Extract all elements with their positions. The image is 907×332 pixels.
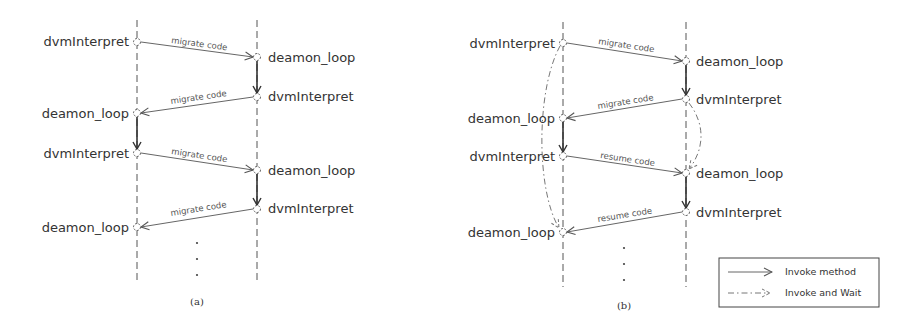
node	[560, 153, 567, 160]
sequence-diagram: migrate code migrate code migrate code m…	[0, 0, 907, 332]
node	[683, 58, 690, 65]
node	[683, 209, 690, 216]
node-label: dvmInterpret	[696, 205, 782, 220]
caption-a: (a)	[190, 296, 204, 307]
node	[254, 206, 261, 213]
node-label: deamon_loop	[268, 50, 355, 65]
node-label: deamon_loop	[696, 54, 783, 69]
invoke-wait-arrow	[542, 46, 560, 228]
node	[560, 229, 567, 236]
message-label: migrate code	[170, 88, 227, 106]
node-label: dvmInterpret	[268, 201, 354, 216]
message-label: migrate code	[598, 36, 655, 54]
node	[254, 167, 261, 174]
node-label: dvmInterpret	[268, 89, 354, 104]
node	[134, 39, 141, 46]
node	[560, 40, 567, 47]
node	[134, 224, 141, 231]
node-label: dvmInterpret	[469, 149, 555, 164]
node-label: deamon_loop	[42, 106, 129, 121]
node	[134, 110, 141, 117]
panel-a: migrate code migrate code migrate code m…	[42, 20, 356, 307]
node	[560, 115, 567, 122]
node-label: dvmInterpret	[43, 146, 129, 161]
node	[134, 150, 141, 157]
node-label: deamon_loop	[42, 220, 129, 235]
node-label: deamon_loop	[696, 166, 783, 181]
node-label: dvmInterpret	[43, 34, 129, 49]
message-label: resume code	[597, 205, 653, 223]
continuation-dots	[623, 247, 625, 281]
node-label: dvmInterpret	[696, 92, 782, 107]
node-label: dvmInterpret	[469, 36, 555, 51]
node-label: deamon_loop	[268, 163, 355, 178]
node	[254, 94, 261, 101]
continuation-dots	[196, 242, 198, 276]
invoke-wait-arrow	[689, 103, 701, 169]
caption-b: (b)	[617, 300, 631, 311]
node	[683, 96, 690, 103]
node	[683, 170, 690, 177]
legend-label-invoke-method: Invoke method	[785, 266, 856, 277]
legend: Invoke method Invoke and Wait	[719, 258, 879, 307]
legend-label-invoke-and-wait: Invoke and Wait	[785, 287, 861, 298]
node-label: deamon_loop	[468, 225, 555, 240]
node-label: deamon_loop	[468, 111, 555, 126]
node	[254, 54, 261, 61]
message-label: migrate code	[170, 199, 227, 218]
